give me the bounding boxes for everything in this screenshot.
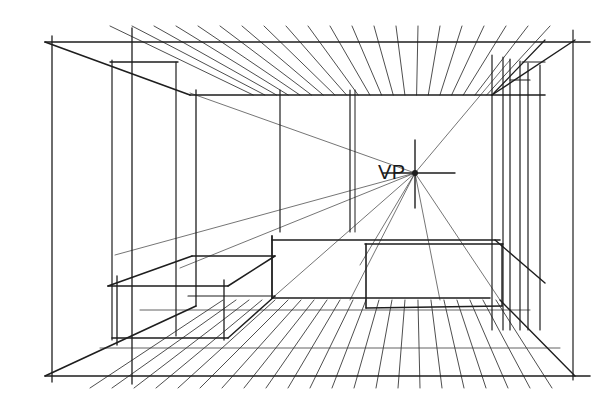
ceiling-line — [198, 26, 300, 95]
floor-grid — [90, 300, 560, 388]
vanishing-point-dot — [412, 170, 418, 176]
vanishing-point-label: VP — [378, 161, 406, 184]
ceiling-line — [428, 26, 440, 95]
perspective-drawing — [0, 0, 616, 404]
ceiling-line — [154, 26, 277, 95]
ceiling-line — [286, 26, 347, 95]
ceiling-right-diagonal-2 — [492, 40, 545, 95]
floor-line — [431, 300, 442, 388]
ceiling-line — [440, 26, 462, 95]
floor-line — [418, 300, 420, 388]
floor-line — [156, 300, 262, 388]
convergence-line — [415, 60, 510, 173]
ceiling-left-diagonal — [45, 42, 190, 95]
ceiling-line — [220, 26, 312, 95]
convergence-line — [360, 173, 415, 265]
floor-line — [354, 300, 379, 388]
floor-line — [483, 300, 530, 388]
floor-line — [244, 300, 314, 388]
ceiling-line — [417, 26, 418, 95]
floor-line — [332, 300, 366, 388]
floor-line — [178, 300, 275, 388]
ceiling-line — [242, 26, 323, 95]
floor-line — [310, 300, 353, 388]
floor-line — [398, 300, 405, 388]
convergence-line — [270, 173, 415, 300]
ceiling-line — [264, 26, 335, 95]
ceiling-line — [452, 26, 484, 95]
floor-line — [90, 300, 223, 388]
floor-line — [376, 300, 392, 388]
floor-line — [470, 300, 508, 388]
floor-line — [134, 300, 249, 388]
room-structure — [45, 28, 590, 384]
convergence-line — [350, 173, 415, 300]
floor-line — [288, 300, 340, 388]
ceiling-right-diagonal — [492, 40, 575, 95]
ceiling-line — [308, 26, 358, 95]
floor-line — [112, 300, 236, 388]
floor-line — [222, 300, 301, 388]
box-top-right — [228, 256, 275, 286]
ceiling-line — [330, 26, 370, 95]
center-box — [272, 236, 545, 308]
box-bottom-front — [366, 306, 502, 308]
convergence-line — [115, 173, 415, 255]
convergence-lines — [115, 60, 510, 300]
ceiling-line — [132, 26, 265, 95]
convergence-line — [180, 173, 415, 268]
ceiling-line — [396, 26, 405, 95]
ceiling-line — [463, 26, 506, 95]
box-top-left — [108, 256, 192, 286]
box-bottom-right — [228, 296, 275, 338]
floor-left-diagonal — [45, 306, 196, 376]
